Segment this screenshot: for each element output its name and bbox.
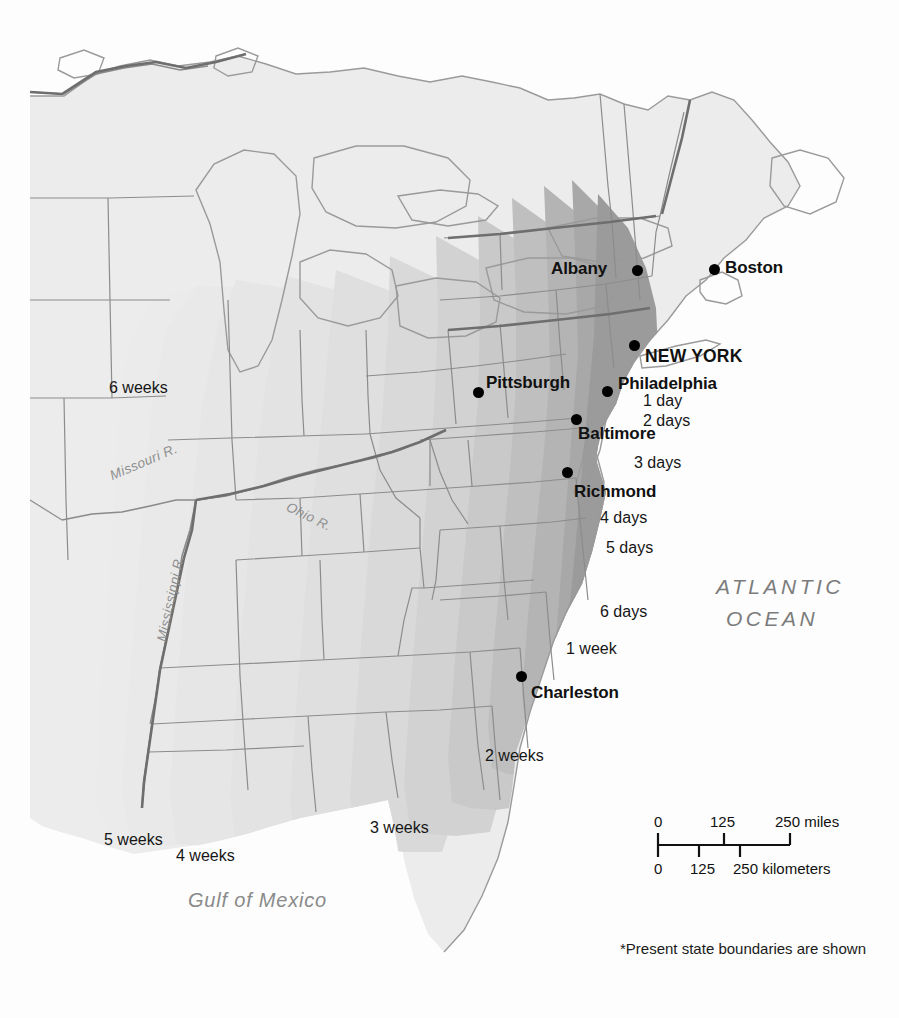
- isochrone-label-5-weeks: 5 weeks: [104, 832, 163, 848]
- gulf-of-mexico-label: Gulf of Mexico: [188, 890, 327, 910]
- isochrone-label-5-days: 5 days: [606, 540, 653, 556]
- isochrone-label-4-weeks: 4 weeks: [176, 848, 235, 864]
- city-label-richmond: Richmond: [574, 483, 656, 500]
- scale-miles-tick-250: 250 miles: [775, 814, 839, 829]
- scale-miles-tick-0: 0: [654, 814, 662, 829]
- city-dot-pittsburgh[interactable]: [473, 387, 484, 398]
- city-dot-baltimore[interactable]: [571, 414, 582, 425]
- footnote-state-boundaries: *Present state boundaries are shown: [620, 941, 866, 956]
- atlantic-ocean-label-line2: OCEAN: [726, 608, 818, 629]
- city-label-pittsburgh: Pittsburgh: [486, 374, 570, 391]
- city-label-charleston: Charleston: [531, 684, 619, 701]
- city-dot-philadelphia[interactable]: [602, 386, 613, 397]
- city-label-philadelphia: Philadelphia: [618, 375, 717, 392]
- isochrone-label-6-days: 6 days: [600, 604, 647, 620]
- scale-bar-graphic: [658, 833, 790, 857]
- atlantic-ocean-label-line1: ATLANTIC: [716, 576, 844, 597]
- isochrone-label-1-week: 1 week: [566, 641, 617, 657]
- isochrone-label-6-weeks: 6 weeks: [109, 380, 168, 396]
- city-dot-charleston[interactable]: [516, 671, 527, 682]
- city-label-new-york: NEW YORK: [645, 348, 743, 366]
- city-label-boston: Boston: [725, 259, 783, 276]
- scale-km-tick-0: 0: [654, 861, 662, 876]
- isochrone-label-2-weeks: 2 weeks: [485, 748, 544, 764]
- city-dot-boston[interactable]: [709, 264, 720, 275]
- city-label-albany: Albany: [551, 260, 607, 277]
- isochrone-label-4-days: 4 days: [600, 510, 647, 526]
- map-canvas: ATLANTIC OCEAN Gulf of Mexico Missouri R…: [0, 0, 899, 1018]
- isochrone-label-3-weeks: 3 weeks: [370, 820, 429, 836]
- isochrone-label-3-days: 3 days: [634, 455, 681, 471]
- scale-km-tick-250: 250 kilometers: [733, 861, 831, 876]
- city-dot-albany[interactable]: [632, 265, 643, 276]
- city-label-baltimore: Baltimore: [578, 425, 656, 442]
- scale-km-tick-125: 125: [690, 861, 715, 876]
- isochrone-label-1-day: 1 day: [643, 393, 682, 409]
- city-dot-new-york[interactable]: [629, 340, 640, 351]
- city-dot-richmond[interactable]: [562, 467, 573, 478]
- scale-miles-tick-125: 125: [710, 814, 735, 829]
